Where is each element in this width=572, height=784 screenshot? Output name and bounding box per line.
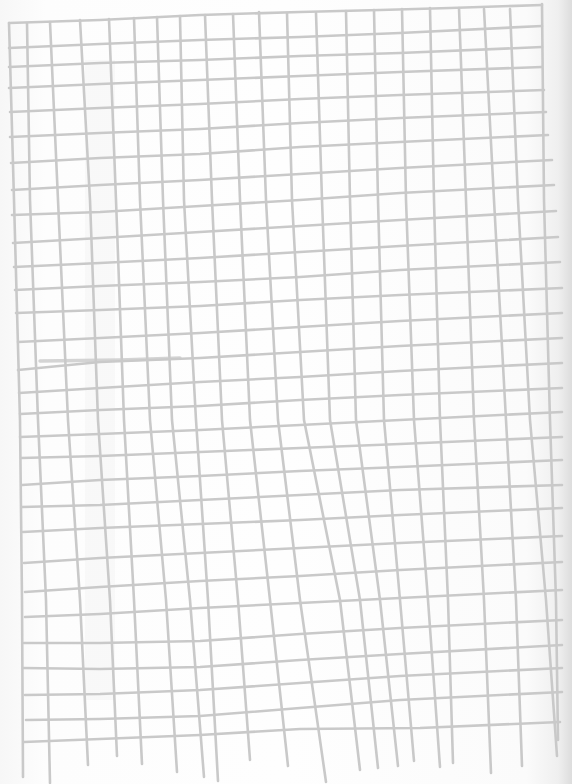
vertical-grid-line	[430, 8, 453, 763]
horizontal-grid-line	[19, 363, 562, 393]
horizontal-grid-line	[25, 590, 562, 617]
horizontal-grid-line	[18, 338, 562, 370]
horizontal-grid-line	[16, 288, 562, 313]
horizontal-grid-line	[26, 692, 562, 720]
horizontal-grid-line	[23, 645, 562, 669]
horizontal-grid-line	[12, 185, 554, 215]
vertical-grid-line	[542, 4, 558, 740]
horizontal-grid-line	[24, 722, 560, 742]
horizontal-grid-line	[9, 26, 542, 48]
vertical-grid-line	[259, 12, 326, 782]
hand-drawn-grid	[0, 0, 572, 784]
horizontal-grid-lines	[9, 5, 562, 742]
horizontal-grid-line	[20, 412, 562, 437]
horizontal-grid-line	[13, 211, 556, 243]
vertical-grid-line	[374, 10, 414, 761]
horizontal-grid-line	[14, 237, 558, 267]
horizontal-grid-line	[25, 668, 562, 695]
horizontal-grid-line	[12, 160, 552, 190]
horizontal-grid-line	[11, 135, 548, 163]
horizontal-grid-line	[20, 388, 562, 414]
horizontal-grid-line	[24, 620, 562, 643]
vertical-grid-lines	[9, 4, 558, 783]
horizontal-grid-line	[9, 5, 542, 23]
vertical-grid-line	[484, 9, 522, 766]
vertical-grid-line	[346, 11, 398, 766]
paper-sheet: Hand-drawn grid of light grey lines on w…	[0, 0, 572, 784]
horizontal-grid-line	[21, 437, 562, 458]
horizontal-grid-line	[15, 262, 560, 290]
horizontal-grid-line	[18, 313, 562, 342]
horizontal-grid-line	[10, 112, 546, 137]
